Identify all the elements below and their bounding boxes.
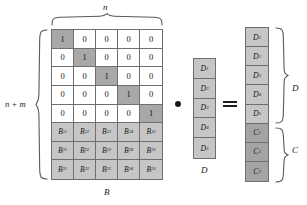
matrix-cell: B14 [118,123,140,142]
matrix-cell: 1 [140,105,162,124]
vector-cell: D1 [246,28,268,47]
label-brace-d: D [292,84,299,93]
vector-cell: C2 [246,143,268,162]
label-n-plus-m: n + m [5,100,26,109]
matrix-cell: 1 [96,67,118,86]
matrix-cell: B23 [96,142,118,161]
matrix-cell: 0 [52,105,74,124]
matrix-cell: B24 [118,142,140,161]
matrix-cell: B32 [74,160,96,179]
matrix-cell: B11 [52,123,74,142]
vector-cell: D2 [194,79,215,99]
equals-icon [223,101,237,107]
matrix-cell: 0 [74,30,96,49]
matrix-cell: 0 [96,49,118,68]
vector-cell: C3 [246,162,268,181]
matrix-cell: 0 [118,30,140,49]
matrix-cell: B35 [140,160,162,179]
vector-cell: D4 [194,118,215,138]
matrix-cell: 1 [52,30,74,49]
matrix-cell: B33 [96,160,118,179]
matrix-cell: B13 [96,123,118,142]
right-brace-c [274,127,290,183]
matrix-cell: 1 [74,49,96,68]
label-matrix-b: B [104,188,110,197]
vector-cell: D3 [246,66,268,85]
matrix-cell: 0 [96,30,118,49]
matrix-cell: 0 [96,105,118,124]
matrix-cell: 0 [74,105,96,124]
vector-cell: C1 [246,124,268,143]
vector-d: D1 D2 D3 D4 D5 [193,58,216,159]
matrix-cell: 0 [140,86,162,105]
matrix-cell: 0 [118,105,140,124]
matrix-b: 1 0 0 0 0 0 1 0 0 0 0 0 1 0 0 0 0 0 1 0 … [51,29,163,180]
top-brace-n [51,13,163,26]
matrix-cell: 0 [52,49,74,68]
matrix-cell: 1 [118,86,140,105]
vector-cell: D1 [194,59,215,79]
vector-cell: D4 [246,85,268,104]
matrix-cell: B21 [52,142,74,161]
matrix-cell: B25 [140,142,162,161]
vector-cell: D5 [194,138,215,158]
matrix-cell: 0 [118,67,140,86]
figure-canvas: n n + m 1 0 0 0 0 0 1 0 0 0 0 0 1 0 0 0 … [0,0,307,205]
vector-result: D1 D2 D3 D4 D5 C1 C2 C3 [245,27,269,182]
multiply-dot-icon [175,101,181,107]
matrix-cell: 0 [140,49,162,68]
vector-cell: D3 [194,99,215,119]
matrix-cell: B34 [118,160,140,179]
matrix-cell: 0 [74,86,96,105]
label-n: n [103,3,108,12]
matrix-cell: B15 [140,123,162,142]
label-brace-c: C [292,146,298,155]
matrix-cell: B31 [52,160,74,179]
matrix-cell: 0 [140,30,162,49]
matrix-cell: 0 [52,86,74,105]
left-brace-n-plus-m [35,29,49,180]
matrix-cell: 0 [140,67,162,86]
matrix-cell: 0 [52,67,74,86]
right-brace-d [274,27,290,124]
vector-cell: D5 [246,105,268,124]
vector-cell: D2 [246,47,268,66]
matrix-cell: B12 [74,123,96,142]
matrix-cell: 0 [118,49,140,68]
matrix-cell: 0 [74,67,96,86]
matrix-cell: B22 [74,142,96,161]
matrix-cell: 0 [96,86,118,105]
label-vector-d: D [201,166,208,175]
